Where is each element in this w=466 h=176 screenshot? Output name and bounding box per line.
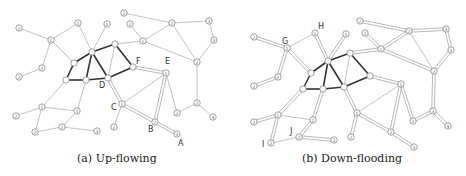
- node-label: 1: [41, 105, 44, 110]
- graph-node: [71, 60, 77, 66]
- node-label: 2: [408, 29, 411, 34]
- edge-double: [299, 136, 334, 139]
- edge-double: [352, 113, 358, 137]
- edge: [42, 40, 51, 68]
- node-label: 3: [413, 145, 416, 150]
- edge: [42, 80, 66, 107]
- node-label: 1: [77, 21, 80, 26]
- graph-node: [105, 75, 111, 81]
- graph-panel-a: 211122123322211232224121223DFECBA: [13, 10, 217, 148]
- node-label: 3: [450, 48, 453, 53]
- edge: [122, 73, 166, 104]
- edge-double: [279, 48, 288, 77]
- edge: [78, 23, 92, 52]
- node-label: 3: [432, 109, 435, 114]
- node-label: 2: [253, 35, 256, 40]
- edge: [287, 33, 315, 48]
- edge-double: [312, 89, 322, 120]
- edge-double: [314, 89, 324, 120]
- node-label: 2: [18, 26, 21, 31]
- edge-double: [107, 79, 121, 105]
- graph-node: [341, 84, 347, 90]
- edge-double: [358, 112, 392, 131]
- edge-core: [108, 67, 133, 78]
- graph-node: [367, 73, 373, 79]
- node-label: 2: [113, 125, 116, 130]
- node-label: 1: [356, 111, 359, 116]
- node-label: 1: [50, 38, 53, 43]
- edge-double: [154, 123, 176, 135]
- edge: [42, 107, 77, 111]
- node-label: 2: [123, 11, 126, 16]
- node-label: 2: [433, 69, 436, 74]
- graph-node: [325, 58, 331, 64]
- edge-core: [92, 52, 108, 78]
- node-label: 4: [212, 115, 215, 120]
- node-label: 1: [142, 39, 145, 44]
- graph-node: [320, 86, 326, 92]
- edge: [108, 44, 115, 78]
- edge-double: [345, 86, 358, 112]
- edge-double: [381, 50, 434, 72]
- edge-core: [344, 76, 370, 87]
- edge: [35, 107, 42, 132]
- node-label: 2: [61, 125, 64, 130]
- node-label: 1: [314, 31, 317, 36]
- edge: [166, 73, 177, 113]
- edge-double: [402, 84, 414, 121]
- edge-core: [115, 44, 133, 67]
- edge: [19, 28, 51, 40]
- edge-double: [433, 49, 450, 70]
- edge: [409, 31, 434, 71]
- edge-double: [390, 84, 400, 132]
- node-label: 3: [208, 19, 211, 24]
- edge-double: [254, 78, 278, 87]
- node-letter-B: B: [148, 125, 154, 134]
- edge-double: [279, 90, 304, 116]
- edge-double: [277, 48, 286, 77]
- node-label: 2: [129, 22, 132, 27]
- node-label: 2: [154, 120, 157, 125]
- node-label: 1: [286, 46, 289, 51]
- node-label: 2: [15, 114, 18, 119]
- edge-core: [86, 52, 92, 80]
- node-label: 1: [76, 109, 79, 114]
- node-label: 3: [445, 27, 448, 32]
- edge-double: [343, 88, 356, 114]
- edge: [19, 68, 42, 77]
- caption-down-flooding: (b) Down-flooding: [302, 152, 402, 165]
- edge-core: [328, 61, 344, 87]
- node-label: 2: [277, 75, 280, 80]
- edge-double: [109, 77, 123, 103]
- edge-core: [323, 61, 328, 89]
- node-label: 2: [298, 135, 301, 140]
- edge: [51, 40, 74, 63]
- edge-double: [277, 88, 302, 114]
- edge-double: [432, 71, 433, 111]
- graph-node: [347, 50, 353, 56]
- edge-double: [133, 68, 166, 74]
- edge-double: [409, 30, 446, 32]
- node-letter-H: H: [318, 22, 324, 31]
- edge: [172, 23, 197, 62]
- edge-double: [356, 114, 390, 133]
- node-label: 1: [121, 102, 124, 107]
- node-label: 2: [364, 31, 367, 36]
- edge-double: [409, 28, 446, 30]
- edge-double: [133, 66, 166, 72]
- edge: [62, 127, 97, 131]
- node-label: 2: [41, 66, 44, 71]
- edge: [172, 21, 209, 23]
- node-label: 3: [176, 132, 179, 137]
- node-label: 2: [253, 120, 256, 125]
- edge-double: [350, 113, 356, 137]
- edge-double: [288, 47, 312, 72]
- node-label: 2: [34, 130, 37, 135]
- node-label: 1: [106, 22, 109, 27]
- caption-up-flowing: (a) Up-flowing: [77, 152, 157, 165]
- edge-double: [121, 105, 154, 123]
- edge: [197, 40, 214, 62]
- graph-node: [308, 70, 314, 76]
- node-letter-J: J: [289, 127, 292, 136]
- edge: [51, 23, 78, 40]
